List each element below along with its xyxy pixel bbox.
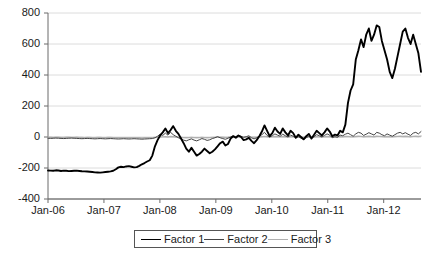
x-axis-tick-label: Jan-06 [18,205,78,216]
x-axis-tick-label: Jan-10 [242,205,302,216]
series-line-1 [48,25,421,172]
y-axis-tick-label: 400 [6,69,40,80]
legend-label: Factor 3 [291,233,331,245]
x-axis-tick-label: Jan-08 [130,205,190,216]
legend-line-swatch [268,239,288,240]
legend-label: Factor 1 [164,233,204,245]
legend-line-swatch [204,239,224,240]
legend-line-swatch [141,239,161,240]
y-axis-tick-label: 200 [6,100,40,111]
legend-item-1[interactable]: Factor 1 [141,233,204,245]
x-axis-tick-label: Jan-09 [186,205,246,216]
legend-item-3[interactable]: Factor 3 [268,233,331,245]
x-axis-tick-label: Jan-11 [298,205,358,216]
x-axis-tick-label: Jan-07 [74,205,134,216]
y-axis-tick-label: 600 [6,38,40,49]
legend-label: Factor 2 [227,233,267,245]
chart-legend: Factor 1Factor 2Factor 3 [134,230,317,248]
chart-canvas [0,0,433,258]
y-axis-tick-label: -200 [6,162,40,173]
y-axis-tick-label: -400 [6,193,40,204]
x-axis-tick-label: Jan-12 [354,205,414,216]
y-axis-tick-label: 0 [6,131,40,142]
y-axis-tick-label: 800 [6,7,40,18]
legend-item-2[interactable]: Factor 2 [204,233,267,245]
line-chart: 8006004002000-200-400Jan-06Jan-07Jan-08J… [0,0,433,258]
